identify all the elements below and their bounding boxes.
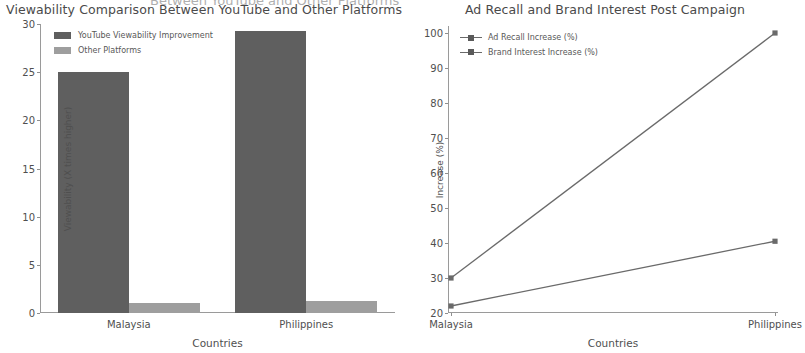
line-y-axis-title: Increase (%) xyxy=(435,141,445,198)
legend-item-label: Brand Interest Increase (%) xyxy=(488,47,598,59)
line-x-axis-title: Countries xyxy=(588,337,638,349)
bar-y-tick-mark xyxy=(37,120,40,121)
line-plot-area: 2030405060708090100 MalaysiaPhilippines … xyxy=(448,26,778,313)
bar-y-tick-label: 30 xyxy=(22,19,35,30)
bar-rect xyxy=(235,31,306,313)
figure-canvas: Between YouTube and Other Platforms View… xyxy=(0,0,805,353)
bar-y-tick-mark xyxy=(37,72,40,73)
line-y-tick-label: 30 xyxy=(430,273,443,284)
line-y-tick-label: 80 xyxy=(430,98,443,109)
bar-y-axis-line xyxy=(40,24,41,313)
bar-plot-area: 051015202530 MalaysiaPhilippines Viewabi… xyxy=(40,24,395,313)
line-marker xyxy=(772,30,777,35)
bar-chart-title: Viewability Comparison Between YouTube a… xyxy=(0,2,411,17)
bar-y-tick-mark xyxy=(37,24,40,25)
bar-y-tick-label: 20 xyxy=(22,115,35,126)
line-x-tick-mark xyxy=(775,313,776,316)
legend-item: Other Platforms xyxy=(54,45,213,57)
line-path xyxy=(451,33,775,278)
line-marker xyxy=(448,275,453,280)
bar-x-axis-title: Countries xyxy=(192,337,242,349)
line-y-tick-label: 50 xyxy=(430,203,443,214)
line-marker xyxy=(448,303,453,308)
bar-y-tick-label: 15 xyxy=(22,163,35,174)
bar-y-tick-mark xyxy=(37,313,40,314)
legend-item: YouTube Viewability Improvement xyxy=(54,30,213,42)
bar-y-tick-mark xyxy=(37,265,40,266)
bar-x-tick-label: Malaysia xyxy=(107,319,151,330)
line-y-tick-label: 20 xyxy=(430,308,443,319)
bar-y-axis-title: Viewability (X times higher) xyxy=(63,106,73,231)
legend-line-marker-icon xyxy=(460,34,482,41)
legend-item: Brand Interest Increase (%) xyxy=(460,47,598,59)
bar-y-tick-label: 0 xyxy=(29,308,35,319)
bar-y-tick-mark xyxy=(37,217,40,218)
bar-y-tick-label: 5 xyxy=(29,259,35,270)
line-marker xyxy=(772,239,777,244)
legend-line-marker-icon xyxy=(460,49,482,56)
bar-x-tick-label: Philippines xyxy=(279,319,333,330)
bar-y-tick-mark xyxy=(37,169,40,170)
bar-rect xyxy=(306,301,377,313)
line-y-tick-label: 90 xyxy=(430,63,443,74)
line-chart-legend: Ad Recall Increase (%) Brand Interest In… xyxy=(460,32,598,61)
line-y-tick-label: 40 xyxy=(430,238,443,249)
bar-chart-panel: Viewability Comparison Between YouTube a… xyxy=(0,0,405,353)
bar-y-tick-label: 25 xyxy=(22,67,35,78)
legend-swatch-icon xyxy=(54,47,71,54)
legend-item-label: YouTube Viewability Improvement xyxy=(78,30,213,42)
bar-rect xyxy=(129,303,200,313)
line-x-tick-label: Philippines xyxy=(748,319,802,330)
legend-swatch-icon xyxy=(54,32,71,39)
bar-chart-legend: YouTube Viewability Improvement Other Pl… xyxy=(54,30,213,59)
legend-item-label: Other Platforms xyxy=(78,45,141,57)
line-chart-title: Ad Recall and Brand Interest Post Campai… xyxy=(405,2,805,17)
line-path xyxy=(451,241,775,306)
line-x-tick-label: Malaysia xyxy=(429,319,473,330)
line-series-group xyxy=(448,26,778,313)
line-x-tick-mark xyxy=(451,313,452,316)
line-chart-panel: Ad Recall and Brand Interest Post Campai… xyxy=(405,0,805,353)
legend-item: Ad Recall Increase (%) xyxy=(460,32,598,44)
line-y-tick-label: 100 xyxy=(424,28,443,39)
line-y-tick-mark xyxy=(445,313,448,314)
legend-item-label: Ad Recall Increase (%) xyxy=(488,32,578,44)
bar-y-tick-label: 10 xyxy=(22,211,35,222)
